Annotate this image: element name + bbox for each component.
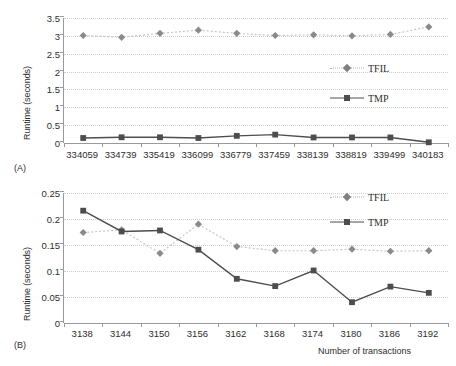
y-tick-label: 3.5 — [47, 14, 60, 23]
y-tick-label: 0.25 — [42, 189, 61, 198]
data-point-tmp — [80, 135, 86, 141]
data-point-tmp — [311, 268, 317, 274]
x-tick-mark — [64, 143, 65, 147]
legend-label-tmp: TMP — [368, 217, 389, 228]
data-point-tfil — [195, 27, 202, 34]
data-point-tmp — [311, 135, 317, 141]
legend-item-tfil[interactable]: TFIL — [330, 62, 389, 74]
x-tick-label: 338139 — [297, 150, 329, 160]
x-tick-mark — [141, 143, 142, 147]
y-axis-ticks-a: 00.511.522.533.5 — [22, 0, 60, 183]
x-tick-label: 335419 — [143, 150, 175, 160]
x-tick-mark — [294, 143, 295, 147]
data-point-tmp — [157, 134, 163, 140]
x-tick-mark — [294, 323, 295, 327]
y-tick-label: 2.5 — [47, 49, 60, 58]
legend-item-tmp[interactable]: TMP — [330, 92, 389, 104]
data-point-tmp — [196, 247, 202, 253]
legend-marker-tfil-icon — [330, 63, 364, 73]
x-tick-mark — [218, 143, 219, 147]
legend-marker-tmp-icon — [330, 93, 364, 103]
legend-b: TFIL TMP — [330, 183, 456, 366]
y-tick-label: 0.15 — [42, 241, 61, 250]
data-point-tmp — [157, 228, 163, 234]
legend-marker-tmp-icon — [330, 217, 364, 227]
data-point-tfil — [272, 247, 279, 254]
legend-label-tfil: TFIL — [368, 63, 389, 74]
data-point-tfil — [118, 34, 125, 41]
x-tick-label: 3174 — [302, 329, 323, 339]
legend-a: TFIL TMP — [330, 0, 456, 183]
data-point-tfil — [233, 30, 240, 37]
figure-runtime-comparison: Runtime (seconds) 00.511.522.533.5 33405… — [0, 0, 456, 366]
x-tick-label: 3138 — [72, 329, 93, 339]
data-point-tmp — [272, 132, 278, 138]
y-tick-label: 1.5 — [47, 85, 60, 94]
x-tick-label: 3168 — [264, 329, 285, 339]
data-point-tfil — [80, 32, 87, 39]
data-point-tfil — [233, 243, 240, 250]
data-point-tmp — [234, 276, 240, 282]
chart-panel-b: Runtime (seconds) 00.050.10.150.20.25 31… — [0, 183, 456, 366]
x-tick-label: 334059 — [66, 150, 98, 160]
data-point-tfil — [272, 32, 279, 39]
x-tick-label: 3156 — [187, 329, 208, 339]
x-tick-mark — [256, 143, 257, 147]
x-tick-mark — [102, 143, 103, 147]
data-point-tfil — [156, 250, 163, 257]
x-tick-label: 334739 — [105, 150, 137, 160]
x-tick-label: 3162 — [225, 329, 246, 339]
data-point-tmp — [80, 208, 86, 214]
legend-label-tfil: TFIL — [368, 192, 389, 203]
legend-item-tmp[interactable]: TMP — [330, 216, 389, 228]
y-tick-label: 0.5 — [47, 121, 60, 130]
legend-label-tmp: TMP — [368, 93, 389, 104]
x-tick-label: 337459 — [258, 150, 290, 160]
legend-marker-tfil-icon — [330, 192, 364, 202]
x-tick-mark — [64, 323, 65, 327]
y-tick-label: 0.2 — [47, 215, 60, 224]
y-tick-label: 0.05 — [42, 293, 61, 302]
x-tick-mark — [141, 323, 142, 327]
data-point-tmp — [119, 229, 125, 235]
x-tick-mark — [179, 323, 180, 327]
data-point-tmp — [234, 133, 240, 139]
y-axis-ticks-b: 00.050.10.150.20.25 — [22, 183, 60, 366]
x-tick-label: 336779 — [220, 150, 252, 160]
data-point-tfil — [310, 247, 317, 254]
y-tick-label: 0.1 — [47, 267, 60, 276]
x-tick-label: 336099 — [182, 150, 214, 160]
data-point-tfil — [80, 229, 87, 236]
data-point-tmp — [119, 134, 125, 140]
data-point-tmp — [196, 135, 202, 141]
data-point-tfil — [156, 30, 163, 37]
x-tick-mark — [218, 323, 219, 327]
x-tick-label: 3144 — [110, 329, 131, 339]
x-tick-mark — [102, 323, 103, 327]
panel-label-a: (A) — [14, 163, 26, 173]
data-point-tfil — [310, 31, 317, 38]
x-tick-label: 3150 — [148, 329, 169, 339]
x-tick-mark — [179, 143, 180, 147]
legend-item-tfil[interactable]: TFIL — [330, 191, 389, 203]
x-axis-title-b: Number of transactions — [318, 346, 411, 356]
x-tick-mark — [256, 323, 257, 327]
data-point-tmp — [272, 283, 278, 289]
chart-panel-a: Runtime (seconds) 00.511.522.533.5 33405… — [0, 0, 456, 183]
panel-label-b: (B) — [14, 340, 26, 350]
